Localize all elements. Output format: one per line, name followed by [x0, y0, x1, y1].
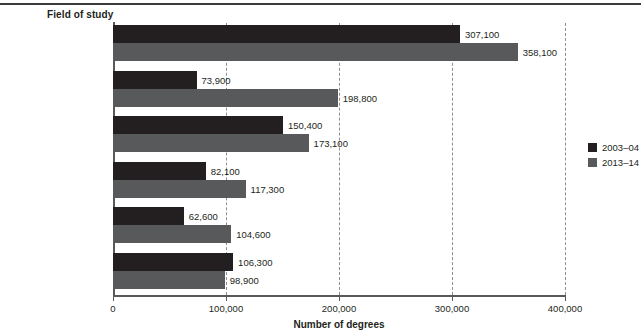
legend-label: 2013–14 [602, 157, 639, 168]
bar [113, 25, 460, 43]
legend-item[interactable]: 2013–14 [588, 156, 639, 169]
bar-value-label: 104,600 [236, 229, 270, 240]
bar [113, 116, 283, 134]
bar [113, 225, 231, 243]
bar-value-label: 73,900 [202, 75, 231, 86]
plot-area [113, 23, 565, 295]
gridline [339, 23, 341, 295]
bar [113, 207, 184, 225]
bar-value-label: 150,400 [288, 120, 322, 131]
bar-value-label: 198,800 [343, 93, 377, 104]
legend-item[interactable]: 2003–04 [588, 141, 639, 154]
y-axis-title: Field of study [47, 9, 113, 20]
bar-value-label: 98,900 [230, 275, 259, 286]
x-axis-title: Number of degrees [113, 319, 565, 330]
bar-value-label: 307,100 [465, 29, 499, 40]
bar-value-label: 62,600 [189, 211, 218, 222]
x-tick-mark [452, 296, 453, 301]
bar [113, 180, 246, 198]
gridline [452, 23, 454, 295]
legend-swatch-icon [588, 143, 597, 152]
bar [113, 134, 309, 152]
legend: 2003–04 2013–14 [588, 141, 639, 171]
bar-value-label: 117,300 [251, 184, 285, 195]
x-tick-label: 400,000 [548, 303, 582, 314]
x-tick-mark [339, 296, 340, 301]
bar [113, 271, 225, 289]
legend-label: 2003–04 [602, 142, 639, 153]
bar [113, 89, 338, 107]
chart-figure: Field of study 0100,000200,000300,000400… [0, 0, 641, 333]
top-rule [0, 3, 641, 5]
x-tick-label: 300,000 [435, 303, 469, 314]
bar-value-label: 106,300 [238, 257, 272, 268]
bar [113, 71, 197, 89]
x-tick-mark [565, 296, 566, 301]
bar-value-label: 173,100 [314, 138, 348, 149]
x-tick-label: 200,000 [322, 303, 356, 314]
bar [113, 43, 518, 61]
x-tick-mark [226, 296, 227, 301]
bar-value-label: 358,100 [523, 47, 557, 58]
bar [113, 253, 233, 271]
x-tick-label: 100,000 [209, 303, 243, 314]
legend-swatch-icon [588, 158, 597, 167]
bar-value-label: 82,100 [211, 166, 240, 177]
bar [113, 162, 206, 180]
gridline [565, 23, 567, 295]
x-tick-mark [113, 296, 114, 301]
x-tick-label: 0 [110, 303, 115, 314]
